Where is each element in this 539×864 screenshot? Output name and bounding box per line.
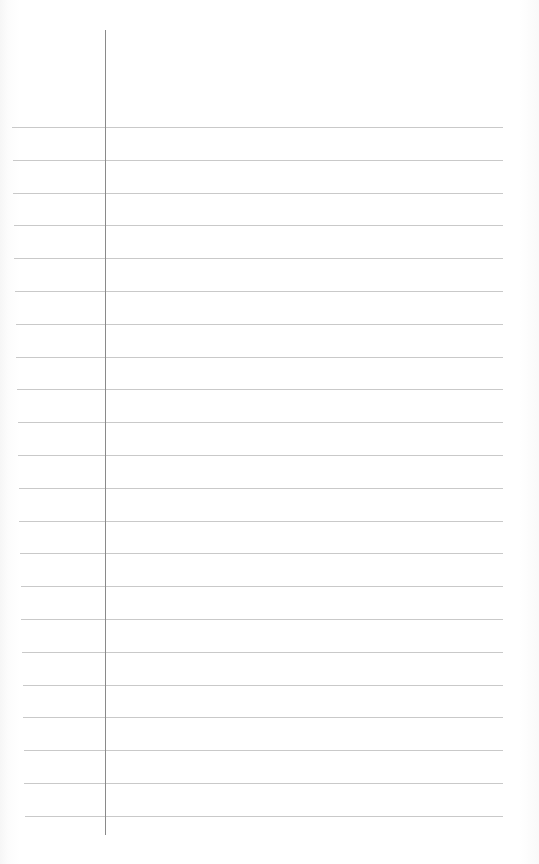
ruled-line bbox=[18, 422, 503, 423]
ruled-line bbox=[23, 685, 503, 686]
ruled-line bbox=[12, 127, 503, 128]
ruled-line bbox=[13, 160, 503, 161]
lined-paper-page bbox=[0, 0, 539, 864]
ruled-line bbox=[16, 324, 503, 325]
ruled-line bbox=[22, 652, 503, 653]
ruled-line bbox=[14, 225, 503, 226]
ruled-line bbox=[16, 357, 503, 358]
ruled-line bbox=[25, 816, 503, 817]
ruled-line bbox=[17, 389, 503, 390]
ruled-line bbox=[19, 521, 503, 522]
ruled-line bbox=[15, 291, 503, 292]
ruled-line bbox=[24, 750, 503, 751]
ruled-line bbox=[19, 488, 503, 489]
ruled-line bbox=[21, 619, 503, 620]
ruled-line bbox=[20, 553, 503, 554]
ruled-line bbox=[23, 717, 503, 718]
ruled-line bbox=[24, 783, 503, 784]
ruled-line bbox=[18, 455, 503, 456]
ruled-line bbox=[14, 258, 503, 259]
ruled-line bbox=[21, 586, 503, 587]
margin-line bbox=[105, 30, 106, 835]
ruled-line bbox=[13, 193, 503, 194]
